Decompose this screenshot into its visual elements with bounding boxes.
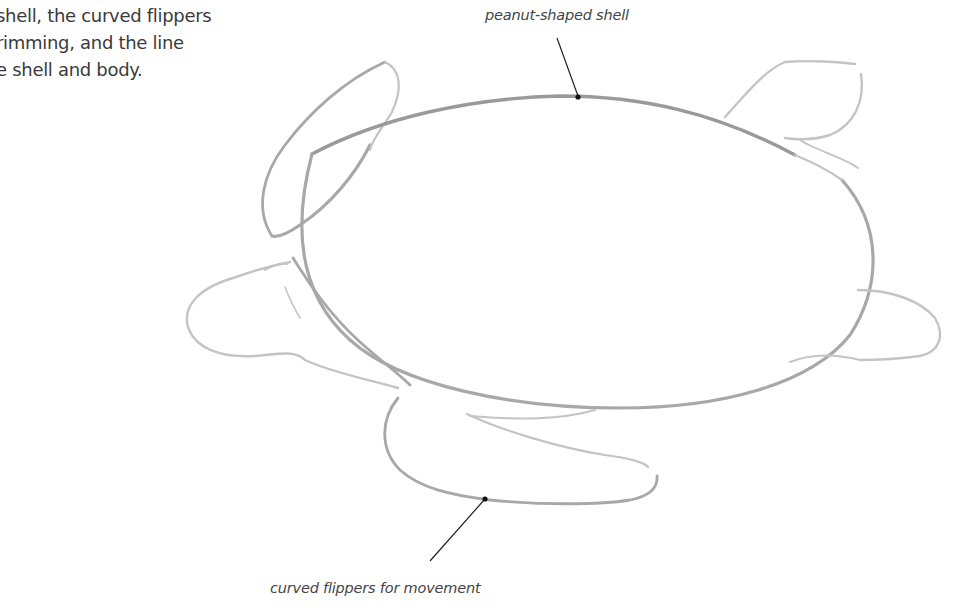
shell (302, 96, 873, 408)
turtle-sketch (0, 0, 955, 608)
flippers-leader-line (430, 496, 488, 561)
head (187, 258, 410, 388)
shell-leader-line (557, 38, 581, 100)
front-right-flipper (725, 61, 862, 168)
front-left-flipper (263, 62, 399, 236)
bottom-flipper (385, 398, 657, 504)
